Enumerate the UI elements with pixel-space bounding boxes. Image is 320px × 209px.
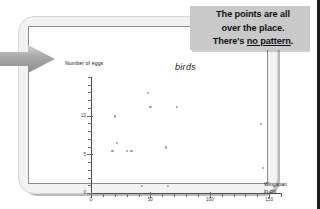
- x-axis-tick-label: 50: [148, 198, 153, 203]
- x-axis-tick: [103, 193, 104, 197]
- x-axis-tick: [245, 193, 246, 197]
- page-edge-gap: [310, 0, 317, 209]
- page-root: Number of eggs birds Wingspan in cm 0501…: [0, 0, 320, 209]
- x-axis-tick: [257, 193, 258, 197]
- y-axis-tick: [88, 139, 92, 140]
- y-axis-tick: [88, 100, 92, 101]
- data-point: [116, 142, 118, 144]
- y-axis-tick: [87, 193, 93, 194]
- plot-area: 0501001500510: [91, 78, 281, 194]
- x-axis-tick-label: 100: [206, 198, 214, 203]
- caption-line-3-prefix: There's: [213, 36, 247, 46]
- x-axis-tick-label: 0: [90, 198, 93, 203]
- data-point: [149, 106, 151, 108]
- caption-line-3-suffix: .: [291, 36, 293, 46]
- scatter-chart: Number of eggs birds Wingspan in cm 0501…: [65, 60, 289, 209]
- y-axis-tick-label: 0: [83, 192, 86, 197]
- y-axis-tick-label: 10: [81, 114, 86, 119]
- y-axis-tick: [88, 85, 92, 86]
- data-point: [262, 167, 264, 169]
- data-point: [147, 92, 149, 94]
- chart-title: birds: [175, 62, 196, 72]
- y-axis-tick: [88, 92, 92, 93]
- caption-line-3: There's no pattern.: [190, 35, 316, 49]
- caption-emphasis: no pattern: [247, 36, 291, 46]
- y-axis-tick: [88, 123, 92, 124]
- data-point: [260, 123, 262, 125]
- y-axis-tick: [88, 131, 92, 132]
- x-axis-tick-label: 150: [265, 198, 273, 203]
- data-point: [167, 185, 169, 187]
- x-axis-tick: [127, 193, 128, 197]
- x-axis-tick: [186, 193, 187, 197]
- y-axis-tick: [87, 154, 93, 155]
- x-axis-tick: [139, 193, 140, 197]
- data-point: [175, 106, 177, 108]
- y-axis-tick: [88, 178, 92, 179]
- y-axis-tick: [88, 185, 92, 186]
- data-point: [130, 150, 132, 152]
- x-axis-tick: [234, 193, 235, 197]
- y-axis-tick-label: 5: [83, 153, 86, 158]
- x-axis-tick: [198, 193, 199, 197]
- data-point: [141, 185, 143, 187]
- data-point: [111, 150, 113, 152]
- data-point: [126, 150, 128, 152]
- x-axis-tick: [115, 193, 116, 197]
- y-axis-tick: [88, 77, 92, 78]
- caption-line-2: over the place.: [190, 22, 316, 36]
- y-axis-tick: [88, 108, 92, 109]
- x-axis-tick: [162, 193, 163, 197]
- y-axis-tick: [88, 162, 92, 163]
- y-axis-tick: [88, 170, 92, 171]
- data-point: [165, 147, 167, 149]
- arrow-right-icon: [0, 44, 56, 74]
- caption-box: The points are all over the place. There…: [190, 6, 316, 50]
- y-axis-tick: [88, 147, 92, 148]
- x-axis-tick: [281, 193, 282, 197]
- y-axis-tick: [87, 116, 93, 117]
- y-axis-title: Number of eggs: [65, 60, 103, 66]
- x-axis-tick: [222, 193, 223, 197]
- caption-line-1: The points are all: [190, 6, 316, 22]
- x-axis-tick: [174, 193, 175, 197]
- data-point: [114, 116, 116, 118]
